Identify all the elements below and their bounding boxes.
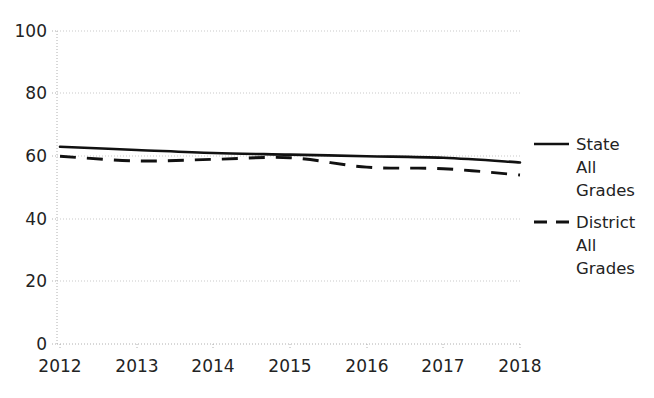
legend-entry-2-line-1: District bbox=[576, 213, 636, 232]
x-axis-tick-labels: 2012 2013 2014 2015 2016 2017 2018 bbox=[38, 356, 541, 376]
line-chart: 100 80 60 40 20 0 2012 2013 2014 2015 20… bbox=[0, 0, 654, 398]
x-tick-label-2016: 2016 bbox=[345, 356, 388, 376]
x-tick-label-2018: 2018 bbox=[498, 356, 541, 376]
y-tick-label-20: 20 bbox=[25, 271, 47, 291]
legend-entry-1-line-3: Grades bbox=[576, 181, 635, 200]
gridlines-horizontal bbox=[57, 31, 522, 281]
x-tick-label-2014: 2014 bbox=[191, 356, 234, 376]
legend-entry-1-line-2: All bbox=[576, 158, 596, 177]
legend-entry-1-line-1: State bbox=[576, 135, 620, 154]
x-tick-label-2013: 2013 bbox=[115, 356, 158, 376]
x-tick-label-2015: 2015 bbox=[268, 356, 311, 376]
y-tick-label-80: 80 bbox=[25, 83, 47, 103]
legend-entry-2-line-3: Grades bbox=[576, 259, 635, 278]
y-axis-tick-labels: 100 80 60 40 20 0 bbox=[15, 21, 47, 354]
chart-canvas: 100 80 60 40 20 0 2012 2013 2014 2015 20… bbox=[0, 0, 654, 398]
y-tick-label-100: 100 bbox=[15, 21, 47, 41]
y-tick-label-0: 0 bbox=[36, 334, 47, 354]
y-tick-label-40: 40 bbox=[25, 209, 47, 229]
x-tick-label-2017: 2017 bbox=[421, 356, 464, 376]
legend: State All Grades District All Grades bbox=[534, 135, 636, 278]
x-tick-label-2012: 2012 bbox=[38, 356, 81, 376]
legend-entry-2-line-2: All bbox=[576, 236, 596, 255]
y-tick-label-60: 60 bbox=[25, 146, 47, 166]
x-tick-marks bbox=[60, 344, 520, 349]
y-tick-marks bbox=[52, 31, 57, 344]
